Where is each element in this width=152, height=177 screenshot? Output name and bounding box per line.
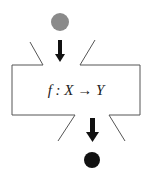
input-arrow-icon — [55, 40, 65, 62]
output-node — [84, 152, 100, 168]
function-label: f : X → Y — [12, 78, 140, 102]
input-node — [51, 13, 69, 31]
output-arrow-icon — [86, 118, 99, 142]
